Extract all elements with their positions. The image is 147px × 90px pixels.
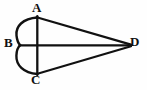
vertex-label-a: A (32, 1, 41, 14)
vertex-label-b: B (4, 36, 13, 49)
diagram-canvas: A B C D (0, 0, 147, 90)
lower-arc-path (16, 45, 37, 74)
upper-arc-path (16, 18, 37, 46)
edge-A-to-D (37, 17, 131, 44)
vertex-label-c: C (31, 73, 40, 86)
edge-C-to-D (37, 46, 131, 74)
vertex-label-d: D (130, 35, 139, 48)
geometry-figure-svg (0, 0, 147, 90)
